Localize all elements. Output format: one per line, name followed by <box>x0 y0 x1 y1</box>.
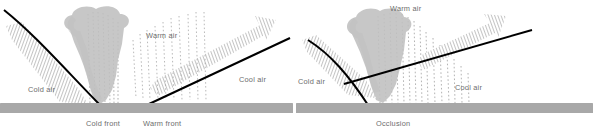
label-warm-front: Warm front <box>143 119 181 128</box>
label-cool-air-right: Cool air <box>455 83 482 92</box>
label-cold-air-right: Cold air <box>298 77 325 86</box>
figure-container: Cold air Warm air Cool air Cold front Wa… <box>0 0 593 140</box>
label-cold-air-left: Cold air <box>28 85 55 94</box>
ground-surface-left <box>0 103 293 113</box>
label-occlusion: Occlusion <box>376 119 410 128</box>
label-warm-air-right: Warm air <box>390 4 422 13</box>
label-warm-air-left: Warm air <box>146 31 178 40</box>
frontal-cross-section-figure: Cold air Warm air Cool air Cold front Wa… <box>0 0 593 140</box>
label-cold-front: Cold front <box>86 119 120 128</box>
label-cool-air-left: Cool air <box>239 75 266 84</box>
ground-surface-right <box>296 103 593 113</box>
